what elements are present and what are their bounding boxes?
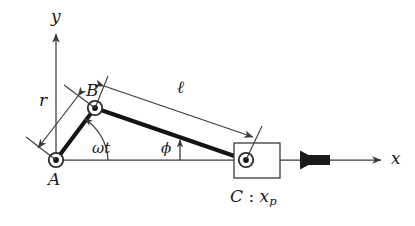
rod-angle-label: ϕ — [161, 141, 171, 156]
dim-r-ext-A — [26, 137, 56, 160]
crank-member-AB — [56, 108, 95, 160]
y-axis-label: y — [51, 8, 61, 25]
point-a-label: A — [48, 171, 60, 188]
crank-length-label: r — [39, 92, 47, 109]
slider-caption: C : xp — [230, 188, 277, 208]
crank-angle-label: ωt — [92, 141, 110, 156]
slider-caption-separator: : — [243, 186, 260, 206]
slider-caption-prefix: C — [230, 186, 243, 206]
slider-caption-subscript: p — [269, 194, 276, 208]
slider-crank-diagram: y x A B r ℓ ωt ϕ C : xp — [0, 0, 415, 226]
mechanism-drawing — [0, 0, 415, 226]
slider-caption-variable: x — [260, 186, 270, 206]
point-b-label: B — [86, 82, 99, 99]
x-axis-label: x — [391, 150, 401, 167]
rod-length-label: ℓ — [177, 79, 184, 96]
